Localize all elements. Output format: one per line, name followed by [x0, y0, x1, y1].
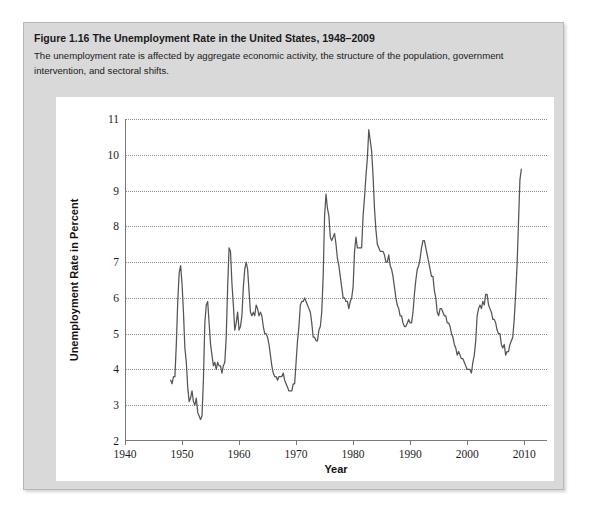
chart-plot-area: 234567891011 194019501960197019801990200…	[125, 119, 547, 441]
figure-number: Figure 1.16	[34, 32, 89, 44]
figure-title-text: The Unemployment Rate in the United Stat…	[92, 32, 374, 44]
y-tick-label-6: 6	[113, 292, 119, 304]
figure-caption: The unemployment rate is affected by agg…	[34, 49, 546, 78]
y-tick-label-7: 7	[113, 256, 119, 268]
y-axis-title-text: Unemployment Rate in Percent	[66, 119, 82, 441]
x-axis-title: Year	[125, 463, 547, 475]
y-tick-label-8: 8	[113, 220, 119, 232]
y-tick-label-10: 10	[108, 149, 120, 161]
series-polyline	[171, 130, 522, 420]
plot-panel: Unemployment Rate in Percent 23456789101…	[56, 97, 554, 481]
y-tick-label-4: 4	[113, 363, 119, 375]
x-tick-label-1960: 1960	[228, 448, 251, 460]
x-tick-label-2010: 2010	[513, 448, 536, 460]
page-canvas: Figure 1.16 The Unemployment Rate in the…	[0, 0, 589, 517]
unemployment-rate-line-series	[125, 119, 547, 441]
figure-title: Figure 1.16 The Unemployment Rate in the…	[34, 31, 554, 45]
x-tick-label-2000: 2000	[456, 448, 479, 460]
y-tick-label-3: 3	[113, 399, 119, 411]
x-tick-label-1980: 1980	[342, 448, 365, 460]
x-tick-label-1940: 1940	[114, 448, 137, 460]
x-tick-label-1950: 1950	[171, 448, 194, 460]
x-tick-label-1990: 1990	[399, 448, 422, 460]
y-axis-title: Unemployment Rate in Percent	[66, 119, 82, 441]
y-tick-label-5: 5	[113, 328, 119, 340]
figure-card: Figure 1.16 The Unemployment Rate in the…	[23, 22, 564, 490]
y-tick-label-9: 9	[113, 185, 119, 197]
x-tick-label-1970: 1970	[285, 448, 308, 460]
y-tick-label-11: 11	[108, 113, 119, 125]
caption-block: Figure 1.16 The Unemployment Rate in the…	[34, 31, 554, 78]
y-tick-label-2: 2	[113, 435, 119, 447]
